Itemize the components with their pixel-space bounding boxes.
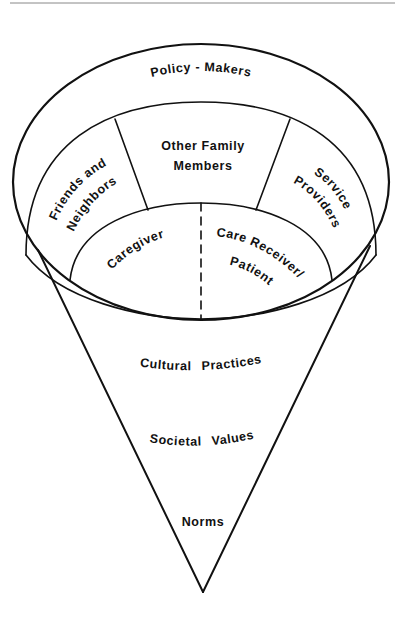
label-societal-values: Societal Values: [149, 428, 255, 449]
label-caregiver: Caregiver: [104, 227, 166, 272]
divider-family-service: [256, 119, 290, 210]
label-norms: Norms: [182, 515, 225, 529]
label-care-receiver-line2: Patient: [228, 254, 276, 288]
label-family-line1: Other Family: [161, 139, 245, 153]
cone-right-edge: [203, 246, 370, 592]
label-family-line2: Members: [173, 159, 232, 173]
label-cultural-practices: Cultural Practices: [139, 352, 262, 373]
cone-left-edge: [38, 250, 203, 592]
divider-friends-family: [115, 119, 148, 210]
cone-diagram: Policy - Makers Friends and Neighbors Ot…: [0, 0, 411, 639]
label-policy-makers: Policy - Makers: [149, 60, 253, 80]
